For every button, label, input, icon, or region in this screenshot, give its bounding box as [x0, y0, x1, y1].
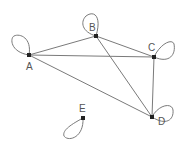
self-loop-a: [12, 35, 30, 55]
edge-b-d: [96, 36, 152, 117]
nodes-group: [27, 34, 156, 120]
vertex-a: [27, 53, 31, 57]
edge-a-d: [29, 55, 152, 117]
vertex-label-b: B: [89, 22, 96, 33]
edges-group: [29, 36, 154, 117]
vertex-c: [152, 55, 156, 59]
vertex-label-a: A: [26, 61, 33, 72]
edge-a-c: [29, 55, 154, 57]
vertex-b: [94, 34, 98, 38]
graph-diagram: ABCDE: [0, 0, 179, 146]
vertex-d: [150, 115, 154, 119]
edge-a-b: [29, 36, 96, 55]
edge-c-d: [152, 57, 154, 117]
vertex-label-e: E: [79, 103, 86, 114]
vertex-e: [81, 116, 85, 120]
vertex-label-c: C: [148, 42, 155, 53]
vertex-label-d: D: [158, 116, 165, 127]
self-loop-c: [154, 42, 174, 60]
edge-b-c: [96, 36, 154, 57]
self-loop-e: [64, 118, 83, 139]
